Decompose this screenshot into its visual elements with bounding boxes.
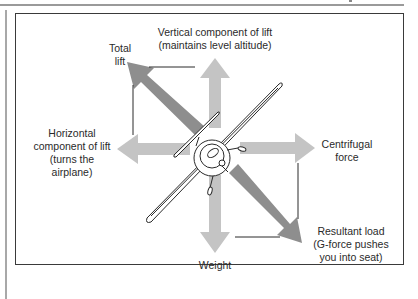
weight-arrow bbox=[200, 175, 230, 253]
total-lift-arrow bbox=[127, 62, 205, 136]
resultant-load-arrow bbox=[229, 164, 302, 243]
label-vertical-lift: Vertical component of lift (maintains le… bbox=[150, 26, 280, 52]
label-weight: Weight bbox=[190, 259, 240, 272]
horizontal-lift-arrow bbox=[117, 134, 190, 164]
label-centrifugal-force: Centrifugal force bbox=[312, 138, 382, 164]
label-resultant-load: Resultant load (G-force pushes you into … bbox=[306, 225, 396, 264]
centrifugal-force-arrow bbox=[240, 133, 315, 163]
label-horizontal-lift: Horizontal component of lift (turns the … bbox=[22, 127, 122, 179]
label-total-lift: Total lift bbox=[100, 42, 140, 68]
